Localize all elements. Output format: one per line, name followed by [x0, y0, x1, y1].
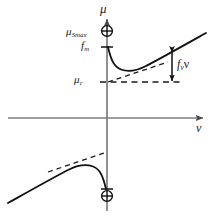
y-axis-label: μ — [100, 2, 107, 15]
mu-c-subscript: c — [80, 79, 83, 86]
stribeck-friction-figure: μ μSmax fm μc fvν ν — [0, 0, 219, 217]
fm-subscript: m — [84, 45, 89, 52]
x-axis-label: ν — [196, 122, 201, 134]
circled-plus-bottom-icon — [101, 190, 112, 201]
friction-curve-positive-branch — [108, 33, 206, 71]
dashed-lines-group — [48, 62, 182, 172]
viscous-asymptote-negative-dashed — [48, 153, 104, 172]
fm-label: fm — [81, 40, 89, 51]
mu-c-label: μc — [74, 74, 83, 85]
mu-smax-label: μSmax — [66, 26, 86, 37]
mu-smax-base: μ — [66, 25, 72, 37]
mu-smax-subscript: Smax — [72, 31, 87, 38]
fv-subscript: v — [180, 63, 183, 72]
fv-nu-label: fvν — [177, 58, 189, 70]
circled-plus-top-icon — [101, 25, 112, 36]
friction-curve-negative-branch — [8, 165, 106, 203]
mu-c-base: μ — [74, 73, 80, 85]
axes-group — [8, 19, 203, 211]
fv-nu-variable: ν — [184, 57, 189, 71]
viscous-asymptote-positive-dashed — [108, 62, 168, 82]
figure-canvas — [0, 0, 219, 217]
